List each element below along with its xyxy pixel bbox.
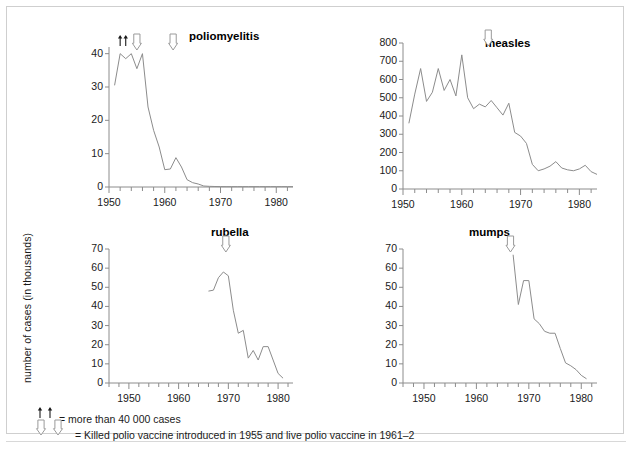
axis-lines (403, 43, 597, 189)
x-tick-label: 1980 (256, 196, 296, 208)
y-tick-label: 40 (63, 299, 103, 311)
up-arrow-icon-1 (38, 407, 42, 418)
y-tick-label: 60 (63, 261, 103, 273)
y-tick-label: 0 (63, 376, 103, 388)
data-line-poliomyelitis (115, 54, 293, 187)
y-tick-label: 400 (357, 109, 397, 121)
x-tick-label: 1950 (109, 392, 149, 404)
y-tick-label: 50 (357, 280, 397, 292)
chart-panel-poliomyelitis: poliomyelitis 0102030401950196019701980 (61, 21, 301, 207)
x-axis-ticks (109, 383, 288, 389)
x-tick-label: 1970 (208, 392, 248, 404)
y-axis-ticks (399, 43, 403, 189)
y-tick-label: 30 (63, 80, 103, 92)
more-than-40000-arrow-1 (118, 35, 122, 46)
y-axis-ticks (105, 249, 109, 383)
y-tick-label: 0 (357, 376, 397, 388)
x-tick-label: 1960 (442, 198, 482, 210)
y-tick-label: 100 (357, 164, 397, 176)
y-tick-label: 70 (63, 242, 103, 254)
footnote-vaccine-introduction: = Killed polio vaccine introduced in 195… (75, 429, 414, 441)
mumps-vaccine-arrow (506, 236, 515, 252)
bottom-divider (6, 441, 626, 442)
figure-frame: number of cases (in thousands) poliomyel… (6, 6, 624, 434)
x-tick-label: 1970 (509, 392, 549, 404)
x-axis-ticks (403, 383, 592, 389)
y-tick-label: 600 (357, 73, 397, 85)
y-tick-label: 20 (63, 113, 103, 125)
y-tick-label: 0 (357, 182, 397, 194)
down-arrow-icon-2 (54, 420, 63, 435)
x-axis-ticks (403, 189, 591, 195)
y-axis-title: number of cases (in thousands) (21, 0, 37, 183)
chart-panel-mumps: mumps 0102030405060701950196019701980 (357, 223, 607, 403)
data-line-mumps (513, 255, 586, 379)
y-tick-label: 20 (63, 338, 103, 350)
up-arrow-icon-2 (48, 407, 52, 418)
measles-vaccine-arrow (484, 30, 493, 46)
y-tick-label: 60 (357, 261, 397, 273)
x-tick-label: 1980 (561, 392, 601, 404)
y-tick-label: 0 (63, 180, 103, 192)
data-line-rubella (208, 272, 283, 378)
data-line-measles (409, 55, 597, 175)
y-tick-label: 10 (357, 357, 397, 369)
x-tick-label: 1970 (201, 196, 241, 208)
x-tick-label: 1960 (159, 392, 199, 404)
y-axis-title-text: number of cases (in thousands) (21, 183, 33, 383)
y-tick-label: 300 (357, 127, 397, 139)
y-tick-label: 800 (357, 36, 397, 48)
y-tick-label: 30 (63, 319, 103, 331)
y-tick-label: 20 (357, 338, 397, 350)
rubella-vaccine-arrow (221, 236, 230, 252)
chart-panel-rubella: rubella 0102030405060701950196019701980 (61, 223, 301, 403)
y-tick-label: 10 (63, 147, 103, 159)
x-tick-label: 1980 (559, 198, 599, 210)
y-tick-label: 50 (63, 280, 103, 292)
axis-lines (403, 249, 597, 383)
y-tick-label: 40 (357, 299, 397, 311)
chart-panel-measles: measles 01002003004005006007008001950196… (357, 21, 607, 207)
y-tick-label: 500 (357, 91, 397, 103)
y-axis-ticks (399, 249, 403, 383)
x-tick-label: 1980 (258, 392, 298, 404)
double-down-arrow-icon (31, 419, 71, 439)
y-tick-label: 700 (357, 54, 397, 66)
y-tick-label: 200 (357, 146, 397, 158)
footnote-more-than-40000: = more than 40 000 cases (59, 413, 181, 425)
x-tick-label: 1970 (501, 198, 541, 210)
axis-lines (109, 249, 293, 383)
y-tick-label: 40 (63, 47, 103, 59)
x-tick-label: 1960 (145, 196, 185, 208)
killed-vaccine-1955-arrow (132, 34, 141, 50)
more-than-40000-arrow-2 (124, 35, 128, 46)
y-tick-label: 30 (357, 319, 397, 331)
y-axis-ticks (105, 54, 109, 187)
x-tick-label: 1950 (89, 196, 129, 208)
x-tick-label: 1950 (383, 198, 423, 210)
y-tick-label: 10 (63, 357, 103, 369)
x-axis-ticks (109, 187, 287, 193)
live-vaccine-1961-arrow (169, 34, 178, 50)
x-tick-label: 1960 (456, 392, 496, 404)
y-tick-label: 70 (357, 242, 397, 254)
down-arrow-icon-1 (37, 420, 46, 435)
x-tick-label: 1950 (404, 392, 444, 404)
